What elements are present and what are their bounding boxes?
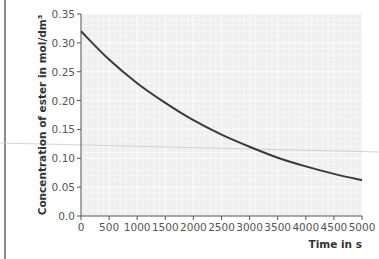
y-axis-ticks: 0.00.050.100.150.200.250.300.35 — [52, 8, 81, 222]
y-axis-title: Concentration of ester in mol/dm³ — [36, 14, 48, 215]
x-tick-label: 4000 — [292, 221, 319, 233]
y-tick-label: 0.30 — [52, 37, 75, 49]
x-tick-label: 3500 — [264, 221, 291, 233]
x-tick-label: 2000 — [180, 221, 207, 233]
y-tick-label: 0.35 — [52, 8, 75, 20]
line-chart: 0.00.050.100.150.200.250.300.35 05001000… — [0, 0, 379, 259]
y-tick-label: 0.25 — [52, 66, 75, 78]
y-tick-label: 0.20 — [52, 95, 75, 107]
x-tick-label: 2500 — [208, 221, 235, 233]
x-axis-title: Time in s — [309, 238, 362, 250]
y-tick-label: 0.15 — [52, 123, 75, 135]
y-tick-label: 0.05 — [52, 181, 75, 193]
x-tick-label: 1000 — [124, 221, 151, 233]
x-axis-ticks: 0500100015002000250030003500400045005000 — [78, 216, 376, 233]
y-tick-label: 0.10 — [52, 152, 75, 164]
x-tick-label: 500 — [99, 221, 119, 233]
x-tick-label: 0 — [78, 221, 85, 233]
x-tick-label: 4500 — [321, 221, 348, 233]
x-tick-label: 3000 — [236, 221, 263, 233]
x-tick-label: 1500 — [152, 221, 179, 233]
x-tick-label: 5000 — [349, 221, 376, 233]
y-tick-label: 0.0 — [58, 210, 75, 222]
